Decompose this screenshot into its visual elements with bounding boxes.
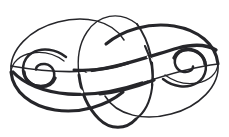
ornament-canvas: Calligraphic Flourish Ornament Symmetric… bbox=[0, 0, 229, 137]
flourish-drawing: Calligraphic Flourish Ornament Symmetric… bbox=[0, 0, 229, 137]
